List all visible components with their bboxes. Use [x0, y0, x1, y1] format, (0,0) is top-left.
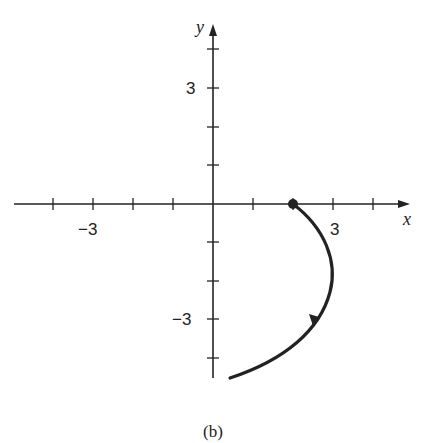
- curve-start-point: [288, 199, 298, 209]
- x-tick-label-3: 3: [330, 220, 339, 239]
- y-axis-arrow-icon: [209, 24, 217, 36]
- figure-caption: (b): [203, 422, 223, 441]
- y-tick-label-neg3: −3: [172, 310, 191, 329]
- y-tick-label-3: 3: [186, 79, 195, 98]
- y-axis-label: y: [194, 17, 204, 37]
- x-axis-label: x: [402, 209, 411, 229]
- diagram-figure: −3 3 3 −3 x y (b): [0, 0, 436, 443]
- x-axis-arrow-icon: [398, 200, 410, 208]
- parametric-curve: [230, 204, 332, 378]
- x-tick-label-neg3: −3: [78, 220, 97, 239]
